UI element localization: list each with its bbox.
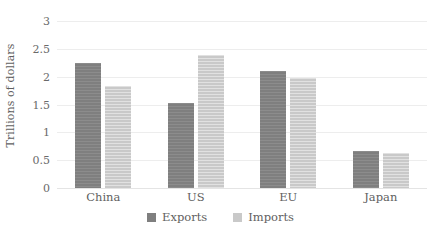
- bar-layer: [57, 21, 427, 188]
- bar-eu-imports[interactable]: [290, 78, 316, 188]
- y-axis-title: Trillions of dollars: [0, 0, 22, 190]
- legend-label: Exports: [162, 210, 207, 224]
- legend-label: Imports: [248, 210, 294, 224]
- y-axis-tick-label: 0.5: [33, 155, 51, 166]
- legend-item-imports[interactable]: Imports: [233, 210, 294, 224]
- legend-swatch-icon: [233, 213, 242, 222]
- bar-group: [75, 21, 131, 188]
- bar-china-exports[interactable]: [75, 63, 101, 188]
- y-axis-tick-label: 2: [43, 71, 50, 82]
- chart-legend: ExportsImports: [0, 210, 441, 224]
- plot-area: 00.511.522.53: [57, 21, 427, 188]
- bar-us-imports[interactable]: [198, 55, 224, 188]
- bar-eu-exports[interactable]: [260, 71, 286, 188]
- bar-chart: Trillions of dollars 00.511.522.53 China…: [0, 0, 441, 239]
- x-axis-tick-label: China: [57, 190, 150, 204]
- x-axis-ticks: ChinaUSEUJapan: [57, 190, 427, 208]
- gridline: [57, 188, 427, 189]
- bar-china-imports[interactable]: [105, 86, 131, 188]
- x-axis-tick-label: EU: [242, 190, 335, 204]
- bar-japan-exports[interactable]: [353, 151, 379, 188]
- y-axis-tick-label: 1.5: [33, 99, 51, 110]
- bar-group: [168, 21, 224, 188]
- bar-us-exports[interactable]: [168, 103, 194, 188]
- x-axis-tick-label: Japan: [335, 190, 428, 204]
- y-axis-tick-label: 1: [43, 127, 50, 138]
- y-axis-tick-label: 0: [43, 183, 50, 194]
- y-axis-tick-label: 3: [43, 16, 50, 27]
- legend-swatch-icon: [147, 213, 156, 222]
- y-axis-title-label: Trillions of dollars: [5, 43, 18, 147]
- legend-item-exports[interactable]: Exports: [147, 210, 207, 224]
- bar-japan-imports[interactable]: [383, 153, 409, 188]
- x-axis-tick-label: US: [150, 190, 243, 204]
- bar-group: [260, 21, 316, 188]
- bar-group: [353, 21, 409, 188]
- y-axis-tick-label: 2.5: [33, 43, 51, 54]
